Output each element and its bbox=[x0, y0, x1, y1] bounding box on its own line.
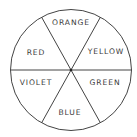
segment-label-green: GREEN bbox=[90, 78, 121, 87]
segment-label-violet: VIOLET bbox=[20, 78, 52, 87]
segment-label-yellow: YELLOW bbox=[87, 47, 125, 56]
segment-label-red: RED bbox=[27, 48, 46, 57]
color-wheel-diagram: ORANGE YELLOW GREEN BLUE VIOLET RED bbox=[0, 0, 137, 137]
segment-label-blue: BLUE bbox=[58, 108, 81, 117]
center-dot bbox=[70, 69, 73, 72]
segment-label-orange: ORANGE bbox=[52, 18, 90, 27]
